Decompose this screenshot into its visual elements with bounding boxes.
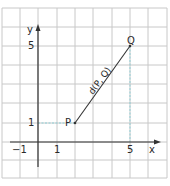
guide-lines	[38, 46, 130, 142]
labels: y x 5 1 −1 1 5 P Q d(P, Q)	[12, 24, 155, 155]
x-tick-1: 1	[54, 144, 60, 155]
distance-label: d(P, Q)	[87, 65, 113, 96]
x-axis-label: x	[149, 144, 155, 155]
y-tick-5: 5	[28, 40, 34, 51]
x-tick-minus-1: −1	[12, 144, 27, 155]
coordinate-plane-diagram: y x 5 1 −1 1 5 P Q d(P, Q)	[0, 0, 170, 186]
x-tick-5: 5	[127, 144, 133, 155]
point-p-dot	[74, 122, 77, 125]
y-axis-label: y	[27, 24, 33, 35]
point-q-label: Q	[127, 35, 135, 46]
x-axis-arrow-icon	[154, 140, 161, 145]
point-p-label: P	[65, 117, 71, 128]
y-tick-1: 1	[28, 117, 34, 128]
